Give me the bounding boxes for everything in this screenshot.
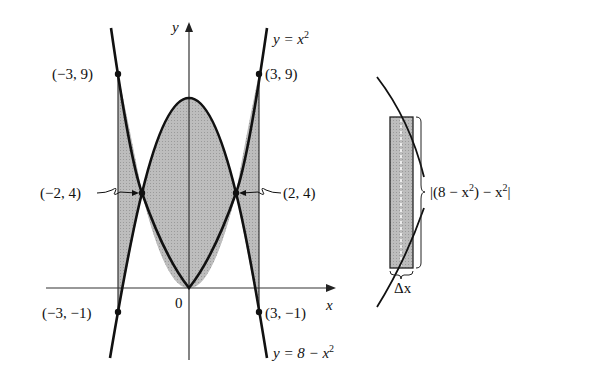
- x-axis-label: x: [325, 297, 333, 313]
- point-label-2-4: (2, 4): [283, 185, 316, 202]
- point-3-9: [256, 71, 262, 77]
- origin-label: 0: [175, 295, 183, 311]
- point-neg3-neg1: [115, 309, 121, 315]
- point-label-3-9: (3, 9): [265, 66, 298, 83]
- y-axis-arrow-icon: [185, 22, 193, 32]
- point-label-neg3-9: (−3, 9): [52, 66, 93, 83]
- point-3-neg1: [256, 309, 262, 315]
- left-graph: y x 0 (−3, 9) (3, 9) (−2, 4) (2, 4) (−3,…: [40, 19, 336, 361]
- point-neg2-4: [139, 190, 145, 196]
- point-label-neg2-4: (−2, 4): [40, 185, 81, 202]
- representative-rectangle-detail: |(8 − x2) − x2| Δx: [377, 77, 510, 307]
- point-2-4: [233, 190, 239, 196]
- delta-x-label: Δx: [394, 280, 412, 296]
- point-label-3-neg1: (3, −1): [265, 305, 306, 322]
- height-brace: [416, 117, 425, 268]
- height-label: |(8 − x2) − x2|: [430, 182, 510, 201]
- curve-label-8-minus-x-squared: y = 8 − x2: [271, 343, 334, 361]
- point-label-neg3-neg1: (−3, −1): [42, 305, 91, 322]
- curve-label-x-squared: y = x2: [271, 29, 309, 47]
- y-axis-label: y: [170, 19, 179, 35]
- x-axis-arrow-icon: [326, 284, 336, 292]
- area-between-curves-figure: y x 0 (−3, 9) (3, 9) (−2, 4) (2, 4) (−3,…: [0, 0, 589, 376]
- point-neg3-9: [115, 71, 121, 77]
